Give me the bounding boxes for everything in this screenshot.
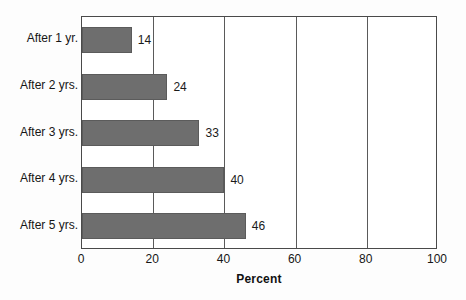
category-label: After 3 yrs. [0, 125, 78, 139]
bar [82, 27, 132, 53]
category-label: After 5 yrs. [0, 218, 78, 232]
x-tick-label: 100 [427, 252, 447, 266]
x-axis-title: Percent [81, 272, 437, 286]
bar [82, 167, 224, 193]
bar [82, 213, 246, 239]
x-tick-label: 0 [78, 252, 85, 266]
x-tick-label: 80 [359, 252, 372, 266]
bar-value-label: 14 [132, 27, 151, 53]
bar [82, 120, 199, 146]
bar-value-label: 40 [224, 167, 243, 193]
category-label: After 4 yrs. [0, 171, 78, 185]
bar-row: 14 [82, 17, 436, 64]
bar-row: 33 [82, 110, 436, 157]
x-tick-label: 40 [217, 252, 230, 266]
bar-chart: After 1 yr. After 2 yrs. After 3 yrs. Af… [0, 0, 466, 300]
category-label: After 2 yrs. [0, 78, 78, 92]
x-tick-label: 20 [146, 252, 159, 266]
bar-row: 24 [82, 64, 436, 111]
bar-value-label: 46 [246, 213, 265, 239]
bar-value-label: 33 [199, 120, 218, 146]
x-tick-label: 60 [288, 252, 301, 266]
bar-row: 40 [82, 157, 436, 204]
category-axis-labels: After 1 yr. After 2 yrs. After 3 yrs. Af… [0, 16, 78, 249]
bar-row: 46 [82, 203, 436, 250]
bar [82, 74, 167, 100]
plot-area: 14 24 33 40 46 [81, 16, 437, 249]
bar-value-label: 24 [167, 74, 186, 100]
category-label: After 1 yr. [0, 31, 78, 45]
